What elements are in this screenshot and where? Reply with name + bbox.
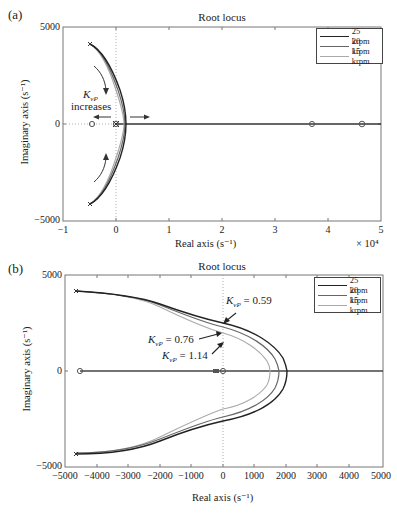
- annotation-value-114: = 1.14: [177, 349, 208, 361]
- legend-a: 25 krpm 20 krpm 15 krpm: [316, 28, 383, 64]
- annotation-sub-114: vP: [169, 356, 176, 364]
- legend-swatch-20krpm-a: [320, 46, 349, 47]
- annotation-kvp-114: KvP = 1.14: [162, 349, 208, 364]
- legend-swatch-25krpm-b: [318, 285, 347, 286]
- root-locus-panel-a: (a) Root locus: [0, 0, 397, 255]
- annotation-value-076: = 0.76: [163, 333, 194, 345]
- locus-15krpm-b: [76, 291, 270, 453]
- annotation-kvp-076: KvP = 0.76: [148, 333, 194, 348]
- annotation-sub-059: vP: [233, 301, 240, 309]
- annotation-value-059: = 0.59: [241, 294, 272, 306]
- legend-item-15krpm-b: 15 krpm: [318, 300, 377, 310]
- legend-swatch-25krpm-a: [320, 36, 349, 37]
- xtick-a-0: −1: [43, 224, 83, 235]
- legend-item-15krpm-a: 15 krpm: [320, 51, 379, 61]
- ytick-top-b: 5000: [14, 269, 62, 280]
- legend-label-15krpm-a: 15 krpm: [352, 46, 379, 66]
- legend-label-15krpm-b: 15 krpm: [350, 295, 377, 315]
- locus-25krpm-b: [76, 291, 287, 454]
- xtick-a-4: 3: [255, 224, 295, 235]
- legend-b: 25 krpm 20 krpm 15 krpm: [314, 277, 381, 313]
- legend-swatch-20krpm-b: [318, 295, 347, 296]
- xtick-a-3: 2: [202, 224, 242, 235]
- xtick-a-5: 4: [308, 224, 348, 235]
- legend-swatch-15krpm-b: [318, 305, 347, 306]
- ytick-top-a: 5000: [12, 21, 60, 32]
- xtick-a-2: 1: [149, 224, 189, 235]
- annotation-sub-076: vP: [155, 340, 162, 348]
- xlabel-b: Real axis (s⁻¹): [192, 491, 253, 503]
- annotation-increases-a: increases: [71, 100, 111, 112]
- legend-swatch-15krpm-a: [320, 56, 349, 57]
- xlabel-a: Real axis (s⁻¹): [175, 237, 236, 249]
- xtick-a-1: 0: [96, 224, 136, 235]
- annotation-kvp-059: KvP = 0.59: [226, 294, 272, 309]
- root-locus-panel-b: (b) Root locus: [0, 255, 397, 515]
- xtick-b-10: 5000: [361, 470, 397, 481]
- xtick-a-6: 5: [361, 224, 397, 235]
- ylabel-a: Imaginary axis (s⁻¹): [18, 79, 30, 164]
- x-multiplier-a: × 10⁴: [356, 238, 379, 249]
- ylabel-b: Imaginary axis (s⁻¹): [20, 326, 32, 411]
